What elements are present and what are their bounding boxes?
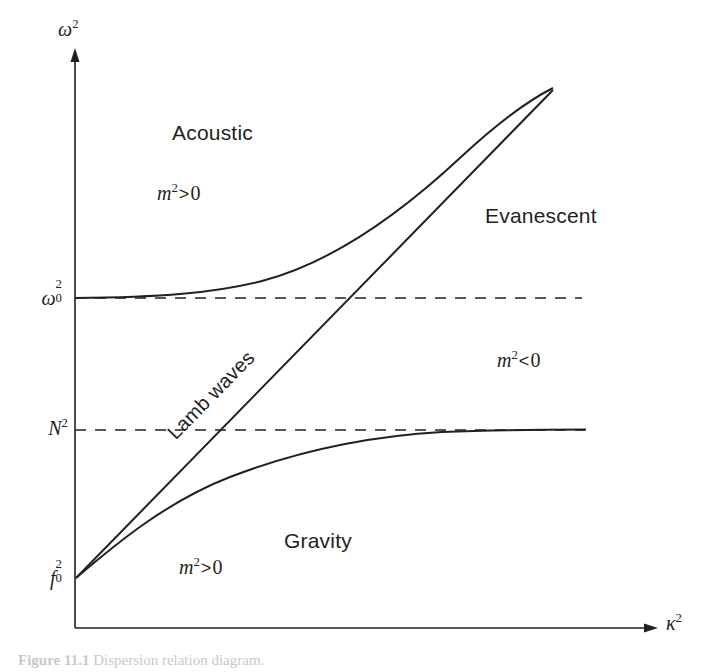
tick-omega-subscript: 0 <box>56 292 62 305</box>
acoustic-branch-curve <box>75 88 553 298</box>
figure-caption-text: Dispersion relation diagram. <box>93 652 264 668</box>
tick-f-scripts: 20 <box>56 565 68 585</box>
tick-omega-scripts: 20 <box>56 285 68 305</box>
acoustic-condition-relation: > <box>178 184 191 204</box>
acoustic-condition-exponent: 2 <box>171 181 177 195</box>
tick-n-exponent: 2 <box>62 416 68 430</box>
figure-caption: Figure 11.1 Dispersion relation diagram. <box>18 652 698 669</box>
region-label-acoustic: Acoustic <box>172 122 253 143</box>
region-condition-acoustic: m2>0 <box>157 182 200 203</box>
tick-label-f-zero-squared: f20 <box>16 565 68 588</box>
tick-f-subscript: 0 <box>56 572 62 585</box>
tick-omega-exponent: 2 <box>56 278 62 291</box>
tick-label-n-squared: N2 <box>16 417 68 438</box>
acoustic-condition-value: 0 <box>190 182 200 204</box>
x-axis <box>75 624 658 633</box>
figure-caption-number: Figure 11.1 <box>18 652 89 668</box>
evanescent-condition-relation: < <box>518 351 531 371</box>
gravity-condition-value: 0 <box>212 556 222 578</box>
gravity-condition-exponent: 2 <box>193 555 199 569</box>
gravity-condition-symbol: m <box>179 556 193 578</box>
tick-f-exponent: 2 <box>56 558 62 571</box>
x-axis-symbol: κ <box>666 612 676 634</box>
region-condition-evanescent: m2<0 <box>497 349 540 370</box>
dispersion-diagram-figure: ω2 κ2 ω20 N2 f20 Acoustic m2>0 Evanescen… <box>0 0 709 672</box>
lamb-wave-line <box>76 90 553 578</box>
region-condition-gravity: m2>0 <box>179 556 222 577</box>
y-axis <box>71 48 80 628</box>
region-label-gravity: Gravity <box>284 530 352 551</box>
tick-n-symbol: N <box>48 417 61 439</box>
x-axis-exponent: 2 <box>676 611 682 625</box>
plot-canvas <box>0 0 709 672</box>
evanescent-condition-symbol: m <box>497 349 511 371</box>
evanescent-condition-exponent: 2 <box>511 348 517 362</box>
region-label-evanescent: Evanescent <box>485 205 597 226</box>
tick-label-omega-zero-squared: ω20 <box>16 285 68 308</box>
acoustic-condition-symbol: m <box>157 182 171 204</box>
gravity-branch-curve <box>76 430 586 578</box>
gravity-condition-relation: > <box>200 558 213 578</box>
x-axis-label: κ2 <box>666 612 682 633</box>
y-axis-label: ω2 <box>58 18 79 39</box>
evanescent-condition-value: 0 <box>530 349 540 371</box>
y-axis-symbol: ω <box>58 18 72 40</box>
y-axis-exponent: 2 <box>72 17 78 31</box>
tick-omega-symbol: ω <box>41 287 55 309</box>
